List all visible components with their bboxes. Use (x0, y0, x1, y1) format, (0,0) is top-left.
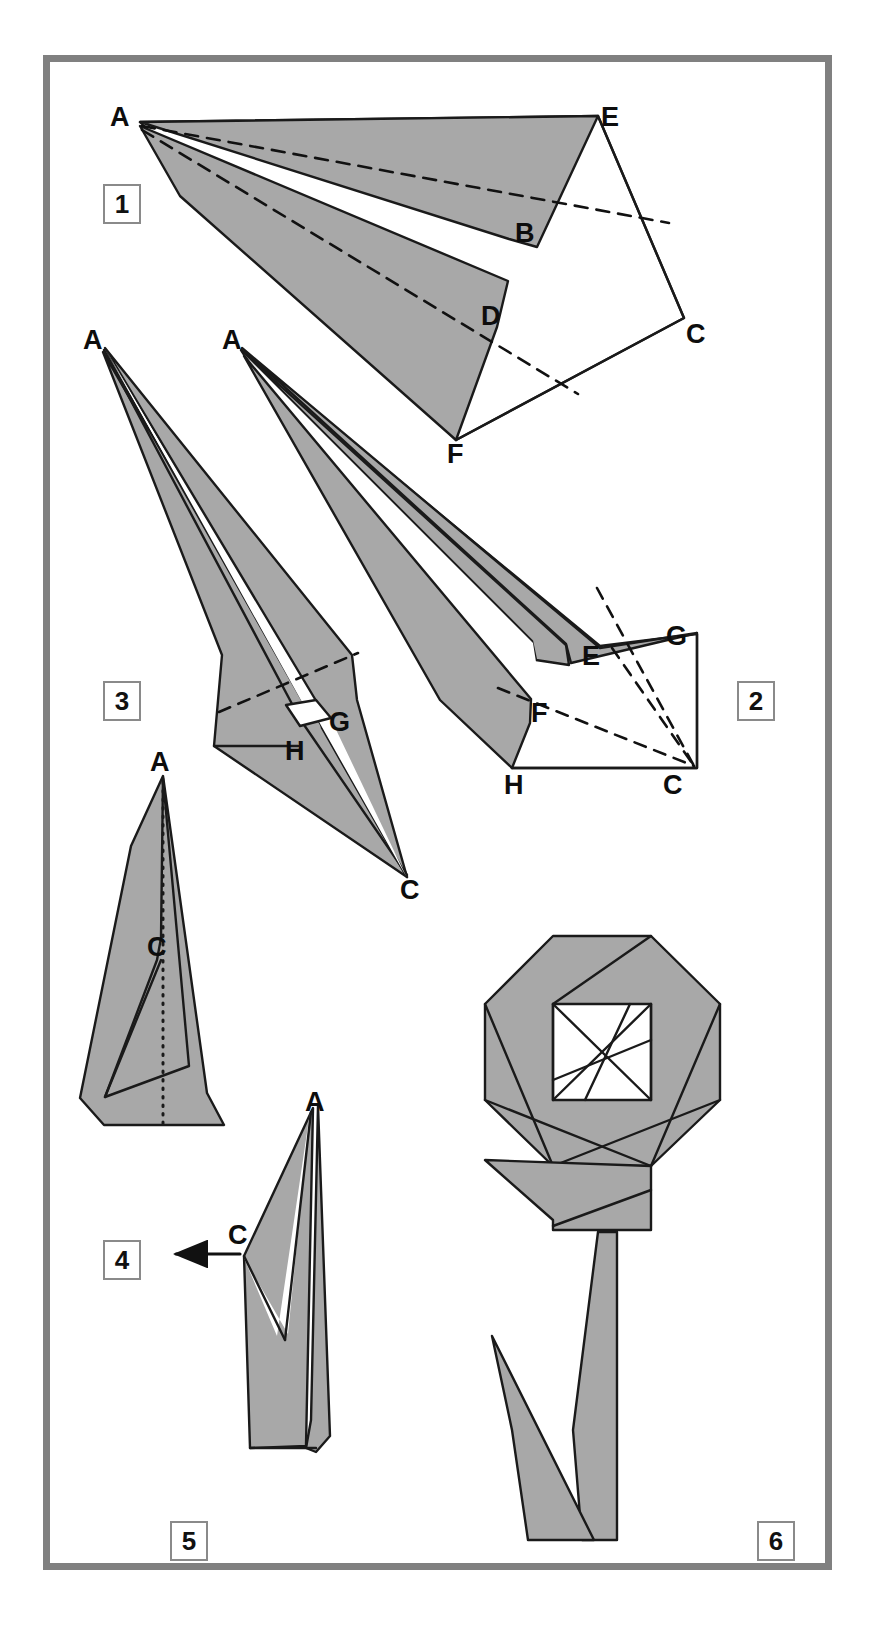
step-badge-4: 4 (103, 1240, 141, 1280)
vertex-label-c-step3: C (400, 877, 420, 904)
vertex-label-h-step2: H (504, 772, 524, 799)
vertex-label-e-step1: E (601, 104, 619, 131)
vertex-label-b-step1: B (515, 220, 535, 247)
step-5-figure (176, 1106, 330, 1452)
vertex-label-c-step4: C (147, 934, 167, 961)
step-badge-3: 3 (103, 681, 141, 721)
step-6-figure (485, 936, 720, 1540)
step-badge-6: 6 (757, 1521, 795, 1561)
vertex-label-c-step2: C (663, 772, 683, 799)
step-badge-5: 5 (170, 1521, 208, 1561)
vertex-label-a-step1: A (110, 104, 130, 131)
vertex-label-g-step3: G (329, 709, 350, 736)
vertex-label-c-step5: C (228, 1222, 248, 1249)
vertex-label-h-step3: H (285, 738, 305, 765)
vertex-label-f-step2: F (531, 700, 548, 727)
vertex-label-f-step1: F (447, 441, 464, 468)
step-badge-1: 1 (103, 184, 141, 224)
vertex-label-c-step1: C (686, 321, 706, 348)
vertex-label-a-step3: A (83, 327, 103, 354)
vertex-label-a-step2: A (222, 327, 242, 354)
vertex-label-g-step2: G (666, 623, 687, 650)
vertex-label-d-step1: D (481, 303, 501, 330)
vertex-label-e-step2: E (582, 643, 600, 670)
vertex-label-a-step5: A (305, 1089, 325, 1116)
step-1-figure (140, 116, 684, 440)
origami-artwork (0, 0, 884, 1644)
diagram-page: 1 2 3 4 5 6 A E B C D F A G H C A G E F … (0, 0, 884, 1644)
step-3-figure (103, 348, 407, 877)
step6-stem (573, 1232, 617, 1540)
vertex-label-a-step4: A (150, 749, 170, 776)
step-badge-2: 2 (737, 681, 775, 721)
